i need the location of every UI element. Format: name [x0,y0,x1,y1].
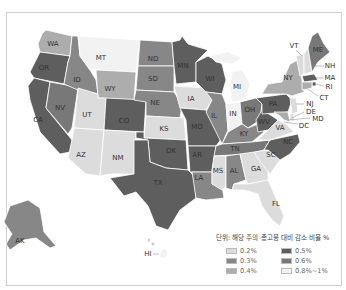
label-NC: NC [283,138,293,146]
label-MS: MS [213,167,224,175]
label-WV: WV [258,118,270,126]
label-IL: IL [211,112,217,120]
hi-island [152,243,155,246]
label-ID: ID [73,76,80,84]
label-TN: TN [229,145,240,153]
label-AL: AL [230,167,239,175]
state-HI[interactable] [160,248,168,258]
hi-island [148,239,150,241]
label-MI: MI [233,83,241,91]
label-CO: CO [119,117,130,125]
legend-item: 0.8%~1% [281,267,341,275]
label-KS: KS [159,125,169,133]
label-GA: GA [251,165,261,173]
label-RI: RI [326,83,333,91]
label-CA: CA [33,116,43,124]
label-CT: CT [319,94,329,102]
label-MT: MT [96,54,107,62]
label-IA: IA [188,95,195,103]
label-AR: AR [192,151,202,159]
legend-swatch [226,268,237,274]
legend-label: 0.6% [295,257,312,265]
state-NJ[interactable] [290,98,298,114]
label-SC: SC [266,151,275,159]
label-PA: PA [269,100,278,108]
legend-swatch [226,258,237,264]
label-OH: OH [245,106,256,114]
legend-swatch [281,268,292,274]
legend-item: 0.2% [226,247,281,255]
label-AK: AK [15,237,25,245]
label-NE: NE [150,99,160,107]
label-OR: OR [39,64,50,72]
label-NM: NM [112,154,123,162]
legend-swatch [281,258,292,264]
label-VT: VT [289,42,299,50]
label-MA: MA [325,74,336,82]
label-ND: ND [148,55,159,63]
legend-label: 0.2% [240,247,257,255]
label-TX: TX [152,179,162,187]
legend-item: 0.3% [226,257,281,265]
label-WI: WI [206,75,215,83]
legend: 단위: 해당 주의 총고용 대비 감소 비율 % 0.2% 0.5% 0.3% … [210,232,340,282]
label-MD: MD [312,115,323,123]
label-SD: SD [148,75,158,83]
label-NH: NH [325,62,336,70]
label-FL: FL [272,200,280,208]
legend-item: 0.4% [226,267,281,275]
state-AZ[interactable] [68,128,104,176]
label-MO: MO [191,123,203,131]
label-OK: OK [166,147,177,155]
legend-label: 0.4% [240,267,257,275]
label-KY: KY [240,130,249,138]
legend-item: 0.6% [281,257,341,265]
label-NV: NV [55,104,65,112]
state-WY[interactable] [96,70,136,100]
label-DC: DC [299,122,309,130]
label-VA: VA [275,124,284,132]
legend-swatch [281,248,292,254]
label-LA: LA [195,174,204,182]
legend-label: 0.3% [240,257,257,265]
label-WY: WY [104,85,116,93]
label-IN: IN [229,110,236,118]
state-MA[interactable] [302,74,318,82]
label-NY: NY [283,74,293,82]
label-ME: ME [313,46,323,54]
label-NJ: NJ [306,100,313,108]
state-CO[interactable] [104,98,146,132]
legend-title: 단위: 해당 주의 총고용 대비 감소 비율 % [216,232,340,242]
legend-swatch [226,248,237,254]
label-AZ: AZ [76,151,86,159]
state-MT[interactable] [78,36,140,72]
label-MN: MN [177,62,188,70]
legend-label: 0.8%~1% [295,267,328,275]
ct-leader-line [306,88,318,96]
state-RI[interactable] [312,82,316,86]
label-HI: HI [144,250,151,258]
legend-label: 0.5% [295,247,312,255]
label-UT: UT [82,111,92,119]
state-AK[interactable] [4,200,56,250]
label-WA: WA [47,40,59,48]
legend-item: 0.5% [281,247,341,255]
ri-leader-line [316,84,324,86]
